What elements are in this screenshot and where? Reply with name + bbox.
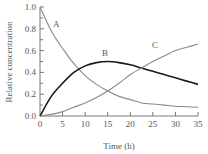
curve-a: [40, 7, 198, 107]
y-axis-label: Relative concentration: [4, 21, 14, 103]
curve-label-b: B: [102, 48, 108, 58]
curve-b: [40, 62, 198, 117]
curve-c: [40, 44, 198, 116]
x-tick-label: 15: [103, 119, 113, 129]
y-tick-label: 0.4: [25, 67, 37, 77]
curves: [40, 7, 198, 116]
x-tick-label: 35: [194, 119, 204, 129]
x-tick-label: 10: [81, 119, 91, 129]
x-tick-label: 5: [60, 119, 65, 129]
concentration-chart: 051015202530350.00.20.40.60.81.0 A B C T…: [0, 0, 208, 154]
y-tick-label: 0.6: [25, 46, 37, 56]
y-tick-label: 0.8: [25, 24, 37, 34]
y-tick-label: 0.2: [25, 89, 36, 99]
y-tick-label: 0.0: [25, 111, 37, 121]
x-tick-label: 30: [171, 119, 181, 129]
x-tick-label: 0: [38, 119, 43, 129]
axes: 051015202530350.00.20.40.60.81.0: [25, 2, 203, 129]
curve-label-a: A: [53, 19, 60, 29]
y-tick-label: 1.0: [25, 2, 37, 12]
curve-label-c: C: [152, 40, 158, 50]
x-axis-label: Time (h): [103, 141, 134, 151]
x-tick-label: 25: [148, 119, 158, 129]
x-tick-label: 20: [126, 119, 136, 129]
